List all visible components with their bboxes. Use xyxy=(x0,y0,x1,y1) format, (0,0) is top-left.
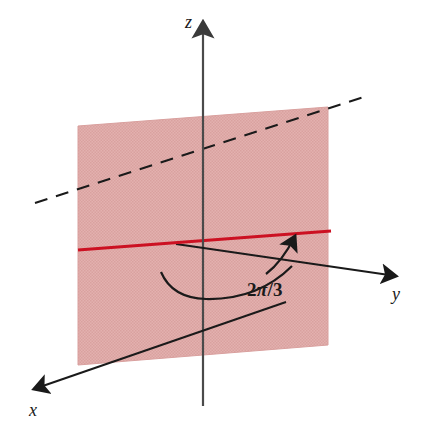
y-axis-label: y xyxy=(392,285,400,303)
figure-container: z y x 2π/3 xyxy=(0,0,422,440)
angle-value-prefix: 2 xyxy=(247,279,257,300)
x-axis-label: x xyxy=(29,401,37,419)
angle-value-suffix: /3 xyxy=(268,279,283,300)
z-axis-label: z xyxy=(185,13,192,31)
coordinate-diagram-svg xyxy=(0,0,422,440)
angle-label: 2π/3 xyxy=(247,280,283,299)
pi-symbol: π xyxy=(257,279,268,300)
